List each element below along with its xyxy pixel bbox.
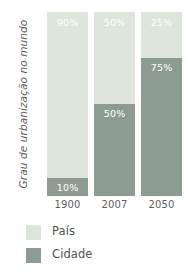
plot-area: 90% 10% 50% 50% 25% 75%: [47, 12, 182, 196]
bar-value-label-cidade-2007: 50%: [94, 108, 135, 119]
legend-item-pais[interactable]: País: [26, 222, 166, 245]
legend-label-cidade: Cidade: [52, 247, 93, 261]
x-tick-label-2007: 2007: [94, 199, 135, 210]
bar-segment-pais-2007[interactable]: 50%: [94, 12, 135, 104]
bar-segment-cidade-2050[interactable]: 75%: [141, 58, 182, 196]
y-axis-title: Grau de urbanização no mundo: [17, 20, 29, 189]
x-axis-tick-labels: 1900 2007 2050: [47, 199, 182, 215]
legend-label-pais: País: [52, 224, 75, 238]
bar-group-1900: 90% 10%: [47, 12, 88, 196]
bar-segment-pais-2050[interactable]: 25%: [141, 12, 182, 58]
legend-swatch-pais-icon: [26, 225, 41, 240]
x-tick-label-1900: 1900: [47, 199, 88, 210]
chart-legend: País Cidade: [26, 222, 166, 268]
legend-swatch-cidade-icon: [26, 248, 41, 263]
bar-value-label-cidade-1900: 10%: [47, 182, 88, 193]
bar-group-2007: 50% 50%: [94, 12, 135, 196]
bar-segment-cidade-1900[interactable]: 10%: [47, 178, 88, 196]
y-axis-title-container: Grau de urbanização no mundo: [0, 12, 46, 196]
bar-value-label-pais-2007: 50%: [94, 17, 135, 28]
bar-value-label-cidade-2050: 75%: [141, 62, 182, 73]
x-tick-label-2050: 2050: [141, 199, 182, 210]
stacked-bar-chart: Grau de urbanização no mundo 90% 10% 50%…: [0, 0, 188, 273]
bar-value-label-pais-2050: 25%: [141, 17, 182, 28]
bar-group-2050: 25% 75%: [141, 12, 182, 196]
bar-segment-cidade-2007[interactable]: 50%: [94, 104, 135, 196]
bar-value-label-pais-1900: 90%: [47, 17, 88, 28]
bar-segment-pais-1900[interactable]: 90%: [47, 12, 88, 178]
legend-item-cidade[interactable]: Cidade: [26, 245, 166, 268]
